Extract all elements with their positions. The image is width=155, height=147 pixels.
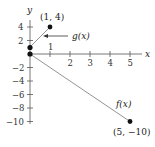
chart: 1 2 3 4 5 4 2 −2 −4 −6 −8 −10 y x (1, 4)…: [0, 0, 155, 147]
f-label: f(x): [115, 99, 132, 109]
point-5-neg10: [128, 119, 133, 124]
y-tick-2: 2: [18, 36, 23, 46]
g-arrow-head-icon: [43, 34, 48, 38]
x-tick-2: 2: [68, 58, 73, 68]
x-tick-3: 3: [88, 58, 93, 68]
x-tick-5: 5: [128, 58, 133, 68]
x-axis-label: x: [145, 49, 150, 59]
y-tick-neg10: −10: [6, 117, 24, 127]
point-label-5-neg10: (5, −10): [113, 127, 150, 137]
point-0-1: [27, 45, 32, 50]
f-line: [30, 54, 130, 122]
x-tick-4: 4: [108, 58, 113, 68]
point-1-4: [48, 25, 53, 30]
point-0-0: [27, 51, 32, 56]
g-label: g(x): [72, 31, 90, 41]
y-tick-neg8: −8: [12, 103, 25, 113]
point-label-1-4: (1, 4): [40, 12, 64, 22]
y-tick-neg2: −2: [12, 63, 25, 73]
y-axis-label: y: [26, 5, 33, 15]
y-tick-neg6: −6: [12, 90, 25, 100]
y-tick-4: 4: [18, 22, 23, 32]
y-tick-neg4: −4: [12, 76, 25, 86]
x-tick-1: 1: [48, 42, 53, 52]
